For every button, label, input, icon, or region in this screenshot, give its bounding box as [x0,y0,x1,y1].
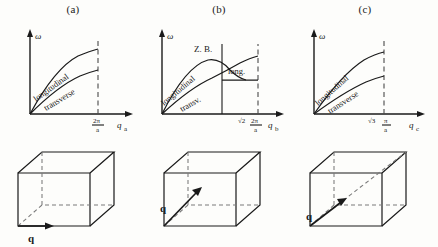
panel-a-x-axis-subscript: a [124,125,128,133]
panel-c-tick-denominator: a [384,126,388,133]
panel-c-tick-numerator: π [384,117,388,125]
panel-b-title: (b) [146,3,292,15]
panel-b-plot: ω q b Z. B. √2 2π a longitudinal transv.… [146,18,292,133]
panel-a-q-label: q [28,232,35,244]
panel-b-tick-denominator: a [254,126,258,133]
panel-a: (a) ω q a 2π a longitudinal transverse [0,0,146,247]
panel-a-cube-hidden-edge-left [18,205,42,226]
panel-c-q-label: q [306,210,313,222]
panel-a-cube: q [0,138,146,246]
panel-a-x-axis-label: q [117,120,122,130]
panel-b-zone-boundary-label: Z. B. [194,44,212,54]
panel-b-x-axis-label: q [268,120,273,130]
panel-a-cube-top-face [18,152,114,173]
panel-a-x-axis-arrowhead [125,111,133,117]
panel-c-plot: ω q c √3 π a longitudinal transverse [292,18,438,133]
panel-a-q-arrowhead [45,223,54,230]
panel-a-title: (a) [0,3,146,15]
panel-b-cube-hidden-edges [188,152,260,205]
panel-b-tick-prefix: √2 [238,117,246,125]
panel-b-y-axis-arrowhead [159,29,165,37]
panel-b-x-axis-arrowhead [276,111,284,117]
panel-c-y-axis-arrowhead [311,29,317,37]
panel-c-tick-prefix: √3 [368,117,376,125]
panel-b-cube: q [146,138,292,246]
panel-b-cube-front-face [164,173,236,226]
panel-c-q-arrow [310,203,340,226]
panel-c-cube-top-face [310,152,406,173]
panel-a-tick-denominator: a [96,126,100,133]
panel-b-x-axis-subscript: b [275,125,279,133]
panel-c-x-axis-label: q [409,120,414,130]
panel-a-tick-numerator: 2π [93,117,101,125]
panel-a-y-axis-arrowhead [27,29,33,37]
phonon-dispersion-figure: (a) ω q a 2π a longitudinal transverse [0,0,438,247]
panel-b-q-label: q [160,202,167,214]
panel-b-label-long-branch: long. [228,66,245,76]
panel-b-y-axis-label: ω [167,31,173,41]
panel-c: (c) ω q c √3 π a longitudinal transverse [292,0,438,247]
panel-b-q-arrow [164,193,196,226]
panel-a-cube-hidden-edges [42,152,114,205]
panel-a-cube-front-face [18,173,90,226]
panel-c-y-axis-label: ω [319,31,325,41]
panel-c-title: (c) [292,3,438,15]
panel-b: (b) ω q b Z. B. √2 2π a long [146,0,292,247]
panel-b-tick-numerator: 2π [251,117,259,125]
panel-c-curve-longitudinal [314,52,384,114]
panel-c-cube: q [292,138,438,246]
panel-c-x-axis-arrowhead [417,111,425,117]
panel-a-y-axis-label: ω [35,31,41,41]
panel-a-plot: ω q a 2π a longitudinal transverse [0,18,146,133]
panel-b-cube-top-face [164,152,260,173]
panel-c-x-axis-subscript: c [416,125,419,133]
